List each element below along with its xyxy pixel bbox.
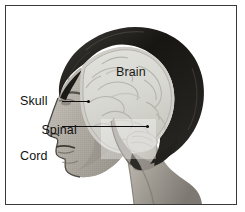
skull-leader-line [62, 101, 89, 102]
label-spinal-cord-line2: Cord [20, 150, 77, 163]
spinal-cord-leader-dot [146, 125, 149, 128]
label-spinal-cord: Spinal Cord [20, 111, 77, 189]
label-spinal-cord-line1: Spinal [41, 123, 76, 137]
label-skull: Skull [20, 95, 48, 108]
upper-left-mask [6, 6, 44, 66]
skull-leader-dot [87, 100, 90, 103]
label-brain: Brain [116, 66, 146, 79]
anatomical-figure: Brain Skull Spinal Cord [0, 0, 245, 212]
figure-frame: Brain Skull Spinal Cord [5, 5, 237, 205]
